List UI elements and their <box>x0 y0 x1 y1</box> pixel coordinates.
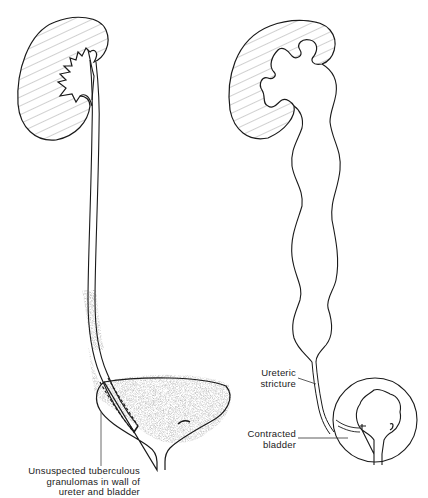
left-kidney <box>18 17 108 140</box>
contracted-label-line-2: bladder <box>236 440 296 451</box>
granulomas-label-line-1: Unsuspected tuberculous <box>22 466 140 477</box>
right-dilated-ureter <box>292 64 341 362</box>
stricture-label-line-1: Ureteric <box>246 368 296 379</box>
kidney-ureter-bladder-diagram <box>0 0 428 498</box>
contracted-bladder-label: Contracted bladder <box>236 429 296 450</box>
stricture-label: Ureteric stricture <box>246 368 296 389</box>
right-bladder <box>333 378 417 465</box>
stricture-label-line-2: stricture <box>246 379 296 390</box>
right-panel <box>229 20 417 465</box>
granulomas-label-line-3: ureter and bladder <box>22 487 140 498</box>
right-kidney <box>229 20 335 138</box>
left-panel <box>18 17 231 470</box>
contracted-label-line-1: Contracted <box>236 429 296 440</box>
granulomas-label: Unsuspected tuberculous granulomas in wa… <box>22 466 140 498</box>
ureteric-stricture <box>312 362 334 434</box>
